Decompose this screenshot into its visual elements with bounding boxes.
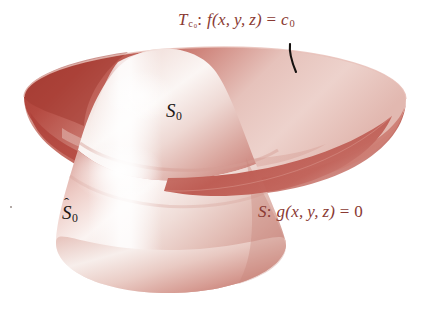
label-lower-region-rendered: ̂S0 <box>62 202 78 223</box>
dome-specular-glow <box>106 70 174 122</box>
scan-speck <box>10 206 12 208</box>
label-lower-region: Ŝ0 ̂S0 <box>62 203 78 224</box>
label-constraint-surface: S: g(x, y, z) = 0 S: g(x, y, z) = 0 <box>258 203 363 220</box>
label-upper-region-rendered: S0 <box>166 100 182 121</box>
label-constraint-surface-rendered: S: g(x, y, z) = 0 <box>258 202 363 221</box>
label-level-surface: Tc0: f(x, y, z) = c0 Tc0: f(x, y, z) = c… <box>178 11 295 30</box>
math-figure: Tc0: f(x, y, z) = c0 Tc0: f(x, y, z) = c… <box>0 0 432 311</box>
label-upper-region: S0 S0 <box>166 101 182 122</box>
label-level-surface-rendered: Tc0: f(x, y, z) = c0 <box>178 10 295 29</box>
surface-illustration <box>0 0 432 311</box>
cone-specular-glow <box>72 142 164 202</box>
